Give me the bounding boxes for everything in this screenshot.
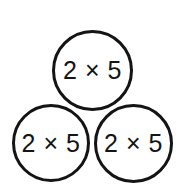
circle-bottom-left-expression: 2 × 5 — [22, 131, 81, 156]
circle-bottom-left: 2 × 5 — [12, 104, 90, 182]
circle-bottom-right-expression: 2 × 5 — [104, 131, 163, 156]
circle-top: 2 × 5 — [52, 30, 133, 111]
circle-bottom-right: 2 × 5 — [94, 104, 173, 183]
diagram-canvas: 2 × 5 2 × 5 2 × 5 — [0, 0, 182, 185]
circle-top-expression: 2 × 5 — [63, 58, 122, 83]
